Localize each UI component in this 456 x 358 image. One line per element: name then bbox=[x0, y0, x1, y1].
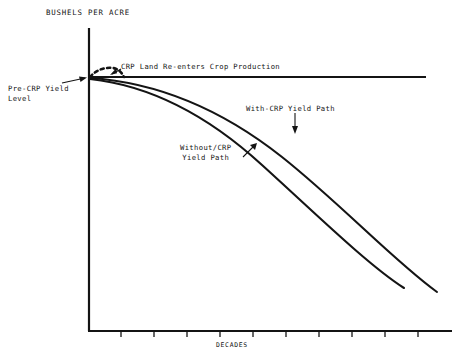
annotation-crp-reentry: CRP Land Re-enters Crop Production bbox=[121, 62, 280, 72]
pre-crp-arrow bbox=[62, 77, 87, 84]
annotation-without-crp-yield-path: Without/CRP Yield Path bbox=[180, 143, 231, 162]
annotation-with-crp-yield-path: With-CRP Yield Path bbox=[246, 104, 335, 114]
y-axis-title: BUSHELS PER ACRE bbox=[46, 8, 130, 18]
with-crp-arrow bbox=[292, 113, 298, 134]
annotation-pre-crp-yield-level: Pre-CRP Yield Level bbox=[8, 84, 69, 103]
chart-figure: BUSHELS PER ACRE DECADES Pre-CRP Yield L… bbox=[0, 0, 456, 358]
crp-reentry-dotted-curve bbox=[90, 68, 124, 77]
x-axis-title: DECADES bbox=[216, 341, 248, 351]
chart-plot-area bbox=[0, 0, 456, 358]
